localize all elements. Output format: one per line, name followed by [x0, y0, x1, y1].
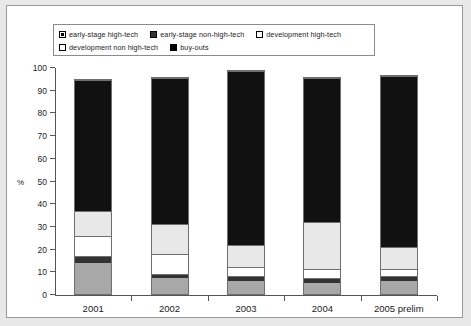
legend-item[interactable]: early-stage non-high-tech	[150, 30, 244, 39]
y-axis-tick	[50, 158, 55, 159]
y-axis-title: %	[17, 178, 24, 187]
white-square-icon	[256, 31, 263, 38]
bar-2003[interactable]	[227, 70, 265, 295]
legend-row: early-stage high-techearly-stage non-hig…	[59, 28, 370, 41]
y-axis-tick	[50, 90, 55, 91]
y-axis-label: 60	[38, 154, 47, 164]
y-axis-line	[55, 68, 56, 296]
segment-development-non-high-tech	[228, 245, 264, 267]
segment-early-stage-high-tech	[75, 263, 111, 294]
x-axis-tick	[208, 296, 209, 301]
legend-item[interactable]: development non high-tech	[59, 43, 158, 52]
gray-square-icon	[59, 31, 66, 38]
y-axis-label: 70	[38, 131, 47, 141]
y-axis-tick	[50, 226, 55, 227]
y-axis-label: 80	[38, 108, 47, 118]
x-axis-label: 2004	[312, 303, 333, 314]
y-axis-tick	[50, 181, 55, 182]
y-axis-label: 50	[38, 177, 47, 187]
legend-item[interactable]: buy-outs	[170, 43, 208, 52]
plot-area: % 01020304050607080901002001200220032004…	[55, 68, 437, 296]
segment-development-high-tech	[75, 236, 111, 256]
y-axis-label: 100	[33, 63, 47, 73]
legend-label: development high-tech	[266, 30, 341, 39]
bar-2005-prelim[interactable]	[380, 75, 418, 295]
y-axis-label: 30	[38, 222, 47, 232]
segment-early-stage-non-high-tech	[75, 256, 111, 263]
legend-item[interactable]: development high-tech	[256, 30, 341, 39]
legend-label: development non high-tech	[69, 43, 158, 52]
segment-early-stage-high-tech	[152, 278, 188, 294]
segment-buy-outs	[152, 78, 188, 224]
y-axis-label: 0	[42, 290, 47, 300]
y-axis-label: 90	[38, 86, 47, 96]
segment-early-stage-high-tech	[228, 281, 264, 294]
legend-label: buy-outs	[180, 43, 208, 52]
bar-2004[interactable]	[303, 77, 341, 295]
segment-development-high-tech	[381, 269, 417, 276]
x-axis-label: 2003	[235, 303, 256, 314]
segment-early-stage-high-tech	[381, 281, 417, 294]
segment-development-high-tech	[152, 254, 188, 274]
y-axis-tick	[50, 67, 55, 68]
x-axis-label: 2002	[159, 303, 180, 314]
y-axis-label: 10	[38, 267, 47, 277]
y-axis-tick	[50, 135, 55, 136]
legend-item[interactable]: early-stage high-tech	[59, 30, 138, 39]
segment-buy-outs	[381, 76, 417, 247]
y-axis-tick	[50, 249, 55, 250]
y-axis-tick	[50, 203, 55, 204]
x-axis-tick	[437, 296, 438, 301]
dark-square-icon	[150, 31, 157, 38]
segment-development-high-tech	[228, 267, 264, 276]
segment-development-high-tech	[304, 269, 340, 278]
segment-early-stage-high-tech	[304, 283, 340, 294]
segment-buy-outs	[304, 78, 340, 222]
y-axis-label: 40	[38, 199, 47, 209]
chart-legend: early-stage high-techearly-stage non-hig…	[53, 24, 375, 56]
y-axis-tick	[50, 294, 55, 295]
bar-2001[interactable]	[74, 79, 112, 295]
black-square-icon	[170, 44, 177, 51]
x-axis-tick	[131, 296, 132, 301]
segment-development-non-high-tech	[381, 247, 417, 269]
x-axis-label: 2001	[83, 303, 104, 314]
legend-label: early-stage high-tech	[69, 30, 138, 39]
y-axis-label: 20	[38, 245, 47, 255]
x-axis-line	[55, 295, 437, 296]
chart-frame: early-stage high-techearly-stage non-hig…	[6, 5, 463, 318]
y-axis-tick	[50, 112, 55, 113]
segment-development-non-high-tech	[152, 224, 188, 253]
segment-development-non-high-tech	[75, 211, 111, 236]
light-square-icon	[59, 44, 66, 51]
bar-2002[interactable]	[151, 77, 189, 295]
segment-development-non-high-tech	[304, 222, 340, 269]
legend-label: early-stage non-high-tech	[160, 30, 244, 39]
y-axis-tick	[50, 271, 55, 272]
x-axis-tick	[284, 296, 285, 301]
segment-buy-outs	[75, 80, 111, 210]
legend-row: development non high-techbuy-outs	[59, 41, 370, 54]
x-axis-label: 2005 prelim	[374, 303, 424, 314]
x-axis-tick	[361, 296, 362, 301]
segment-buy-outs	[228, 71, 264, 244]
